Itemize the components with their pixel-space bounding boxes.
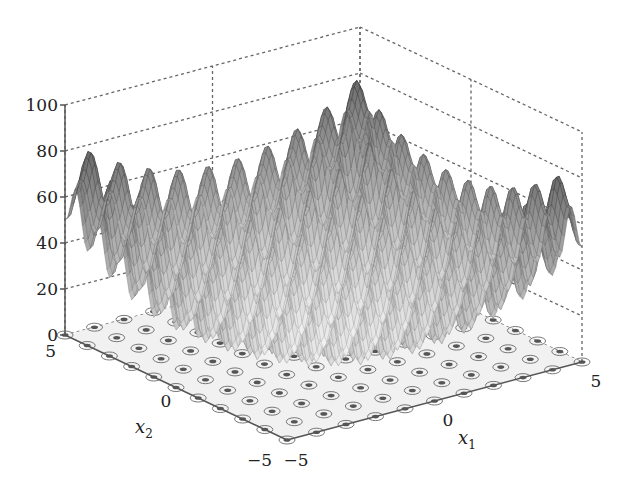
z-tick-60: 60	[36, 187, 58, 207]
z-axis-ticks: 0 20 40 60 80 100	[26, 95, 58, 345]
x1-tick-5: 5	[591, 371, 602, 391]
z-tick-40: 40	[36, 233, 58, 253]
x1-axis-label: x1	[458, 427, 476, 452]
z-tick-20: 20	[36, 279, 58, 299]
x1-tick-neg5: −5	[283, 450, 308, 470]
x1-tick-0: 0	[443, 410, 454, 430]
surface-plot: 0 20 40 60 80 100 5 0 −5 −5 0 5 x2 x1	[0, 0, 624, 488]
svg-text:x1: x1	[458, 427, 476, 452]
x2-tick-5: 5	[45, 341, 56, 361]
x2-tick-0: 0	[161, 391, 172, 411]
x2-tick-neg5: −5	[247, 450, 272, 470]
z-tick-80: 80	[36, 141, 58, 161]
svg-text:x2: x2	[135, 416, 153, 441]
x2-axis-label: x2	[135, 416, 153, 441]
z-tick-100: 100	[26, 95, 58, 115]
